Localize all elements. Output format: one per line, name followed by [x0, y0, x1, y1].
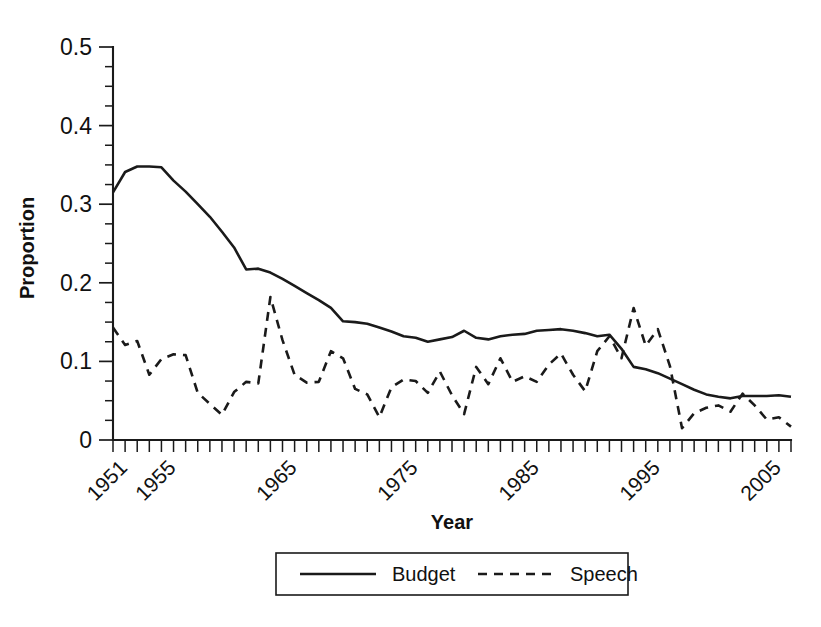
x-tick-label: 1965 — [252, 456, 301, 505]
x-axis-ticks — [113, 440, 791, 452]
y-axis-title: Proportion — [16, 197, 38, 299]
chart-figure: 00.10.20.30.40.5 19511955196519751985199… — [0, 0, 821, 627]
x-axis-title: Year — [431, 511, 473, 533]
y-tick-label: 0.2 — [60, 270, 92, 296]
series-line-budget — [113, 166, 791, 398]
y-tick-label: 0.4 — [60, 113, 92, 139]
y-axis-tick-labels: 00.10.20.30.40.5 — [60, 34, 92, 453]
x-tick-label: 1975 — [373, 456, 422, 505]
x-tick-label: 1951 — [82, 456, 131, 505]
x-tick-label: 1995 — [615, 456, 664, 505]
y-tick-label: 0.1 — [60, 348, 92, 374]
legend-label-budget: Budget — [392, 563, 456, 585]
x-axis-tick-labels: 1951195519651975198519952005 — [82, 456, 785, 505]
chart-legend: Budget Speech — [276, 553, 638, 595]
y-tick-label: 0.3 — [60, 191, 92, 217]
x-tick-label: 1955 — [131, 456, 180, 505]
series-line-speech — [113, 297, 791, 428]
y-tick-label: 0 — [79, 427, 92, 453]
data-series-group — [113, 166, 791, 428]
line-chart: 00.10.20.30.40.5 19511955196519751985199… — [0, 0, 821, 627]
x-tick-label: 2005 — [736, 456, 785, 505]
y-tick-label: 0.5 — [60, 34, 92, 60]
legend-label-speech: Speech — [570, 563, 638, 585]
y-axis-minor-ticks — [105, 67, 113, 421]
x-tick-label: 1985 — [494, 456, 543, 505]
